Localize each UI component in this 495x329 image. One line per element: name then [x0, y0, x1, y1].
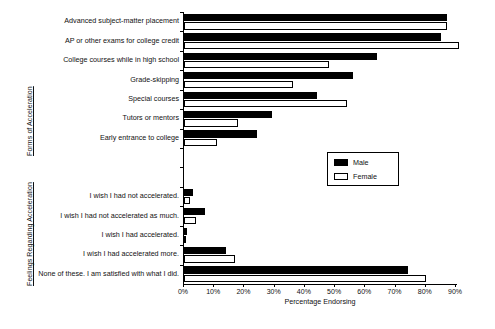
category-label: AP or other exams for college credit — [3, 37, 179, 45]
x-tick — [425, 284, 426, 287]
legend-swatch-female-icon — [334, 173, 348, 180]
y-tick — [180, 148, 183, 149]
x-tick-label: 80% — [418, 288, 432, 295]
bar-female — [184, 22, 447, 29]
bar-male — [184, 266, 408, 273]
plot-area — [183, 12, 455, 284]
legend-label-male: Male — [353, 158, 369, 167]
legend-item-male: Male — [334, 158, 369, 167]
bar-female — [184, 197, 190, 204]
bar-female — [184, 61, 329, 68]
bar-male — [184, 228, 187, 235]
legend-item-female: Female — [334, 172, 377, 181]
bar-male — [184, 208, 205, 215]
y-tick — [180, 265, 183, 266]
bar-male — [184, 72, 353, 79]
bar-male — [184, 247, 226, 254]
bar-male — [184, 189, 193, 196]
y-tick — [180, 129, 183, 130]
y-tick — [180, 70, 183, 71]
bar-male — [184, 130, 257, 137]
bar-female — [184, 139, 217, 146]
bar-male — [184, 53, 377, 60]
x-tick-label: 30% — [267, 288, 281, 295]
x-tick — [183, 284, 184, 287]
x-tick — [455, 284, 456, 287]
y-tick — [180, 31, 183, 32]
x-tick — [243, 284, 244, 287]
category-label: I wish I had not accelerated. — [3, 192, 179, 200]
category-label: Advanced subject-matter placement — [3, 17, 179, 25]
category-label: Grade-skipping — [3, 76, 179, 84]
bar-female — [184, 217, 196, 224]
y-tick — [180, 245, 183, 246]
x-tick — [364, 284, 365, 287]
y-tick — [180, 109, 183, 110]
bar-female — [184, 275, 426, 282]
category-label: Special courses — [3, 95, 179, 103]
category-label: I wish I had not accelerated as much. — [3, 212, 179, 220]
x-tick — [304, 284, 305, 287]
chart-canvas: Forms of Acceleration Feelings Regarding… — [0, 0, 495, 329]
bar-male — [184, 33, 441, 40]
y-tick — [180, 51, 183, 52]
y-tick — [180, 90, 183, 91]
category-label: Tutors or mentors — [3, 114, 179, 122]
bar-female — [184, 81, 293, 88]
x-tick-label: 0% — [178, 288, 188, 295]
x-tick-label: 40% — [297, 288, 311, 295]
bar-female — [184, 119, 238, 126]
bar-male — [184, 111, 272, 118]
legend: Male Female — [327, 152, 399, 186]
x-axis-line — [183, 284, 457, 285]
y-tick — [180, 12, 183, 13]
y-tick — [180, 167, 183, 168]
y-tick — [180, 226, 183, 227]
bar-male — [184, 14, 447, 21]
legend-label-female: Female — [353, 172, 377, 181]
category-label: College courses while in high school — [3, 56, 179, 64]
category-label: None of these. I am satisfied with what … — [3, 270, 179, 278]
category-label: I wish I had accelerated more. — [3, 250, 179, 258]
legend-swatch-male-icon — [334, 159, 348, 166]
x-tick-label: 10% — [206, 288, 220, 295]
bar-female — [184, 255, 235, 262]
bar-female — [184, 236, 186, 243]
x-tick-label: 60% — [357, 288, 371, 295]
x-tick — [213, 284, 214, 287]
bar-female — [184, 42, 459, 49]
x-tick-label: 70% — [388, 288, 402, 295]
x-tick-label: 20% — [236, 288, 250, 295]
x-tick-label: 90% — [448, 288, 462, 295]
x-tick — [274, 284, 275, 287]
category-label: I wish I had accelerated. — [3, 231, 179, 239]
y-tick — [180, 187, 183, 188]
category-label: Early entrance to college — [3, 134, 179, 142]
bar-male — [184, 92, 317, 99]
y-tick — [180, 206, 183, 207]
x-tick — [334, 284, 335, 287]
x-tick — [395, 284, 396, 287]
bar-female — [184, 100, 347, 107]
x-tick-label: 50% — [327, 288, 341, 295]
x-axis-title: Percentage Endorsing — [183, 297, 457, 306]
